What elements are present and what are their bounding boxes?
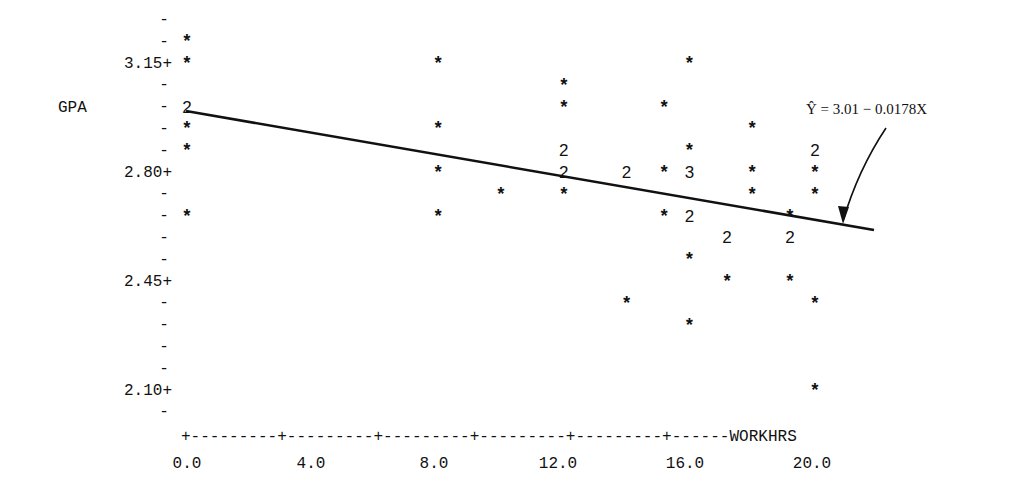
chart-root: GPA 3.15+ 2.80+ 2.45+ 2.10+ ------------… <box>0 0 1032 498</box>
arrowhead-icon <box>838 206 849 224</box>
regression-overlay <box>0 0 1032 498</box>
regression-line <box>186 111 874 230</box>
regression-equation: Ŷ = 3.01 − 0.0178X <box>806 101 927 118</box>
annotation-arrow-icon <box>843 128 886 221</box>
